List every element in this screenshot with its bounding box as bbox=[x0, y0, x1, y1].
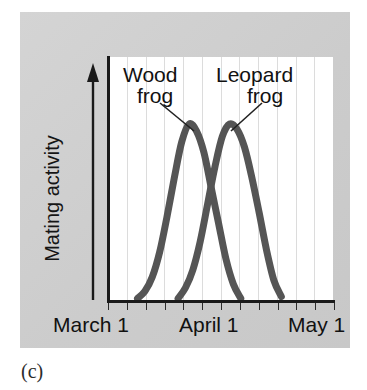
x-tick-label-april-1: April 1 bbox=[179, 313, 239, 337]
x-axis-tick bbox=[127, 303, 128, 310]
figure-caption: (c) bbox=[21, 360, 43, 383]
leader-line-wood-frog bbox=[158, 100, 198, 134]
x-axis-tick bbox=[183, 303, 184, 310]
x-axis-ticks bbox=[108, 303, 334, 311]
y-axis-arrow-icon bbox=[84, 62, 102, 302]
x-axis-tick bbox=[221, 303, 222, 310]
x-axis-tick bbox=[108, 303, 109, 310]
figure-card: Mating activity Wood frog Leopard frog M… bbox=[20, 12, 350, 348]
x-axis-tick bbox=[240, 303, 241, 310]
y-axis-line bbox=[107, 56, 110, 303]
x-tick-label-may-1: May 1 bbox=[288, 313, 345, 337]
x-axis-tick bbox=[146, 303, 147, 310]
y-axis-title: Mating activity bbox=[41, 104, 64, 294]
x-tick-label-march-1: March 1 bbox=[53, 313, 129, 337]
x-axis-tick bbox=[315, 303, 316, 310]
annotation-wood-frog-line1: Wood bbox=[123, 63, 177, 86]
leader-line-leopard-frog bbox=[228, 100, 264, 134]
x-axis-tick bbox=[334, 303, 335, 310]
figure-root: Mating activity Wood frog Leopard frog M… bbox=[0, 0, 367, 390]
x-axis-tick bbox=[165, 303, 166, 310]
x-axis-tick bbox=[296, 303, 297, 310]
x-axis-tick bbox=[259, 303, 260, 310]
x-axis-tick bbox=[202, 303, 203, 310]
annotation-leopard-frog-line1: Leopard bbox=[216, 63, 293, 86]
x-axis-tick bbox=[278, 303, 279, 310]
